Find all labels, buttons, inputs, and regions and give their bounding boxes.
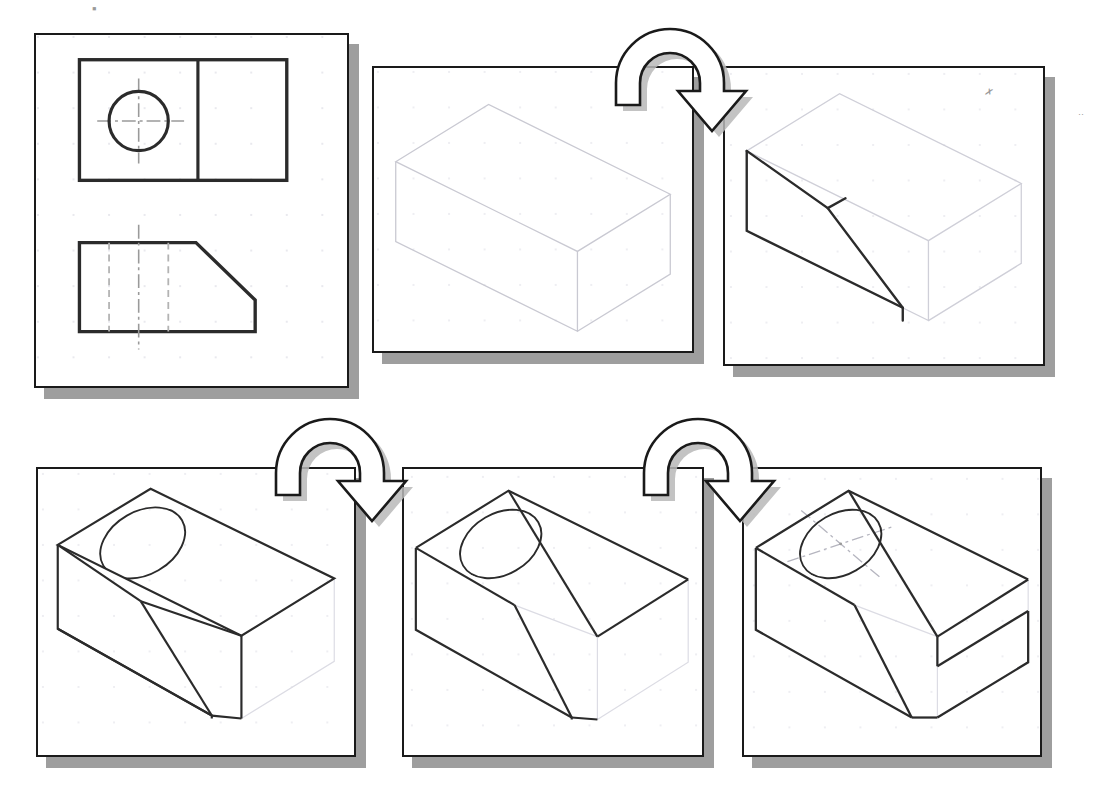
figure-canvas: ▪ — [0, 0, 1097, 792]
angled-cut-panel[interactable] — [723, 66, 1045, 366]
finished-pictorial-panel[interactable] — [742, 467, 1042, 757]
orthographic-views-panel[interactable] — [34, 33, 349, 388]
refined-solid-panel[interactable] — [402, 467, 704, 757]
stray-pencil-mark-right-edge: ·· — [1078, 110, 1084, 119]
solid-with-hole-panel[interactable] — [36, 467, 356, 757]
isometric-box-panel[interactable] — [372, 66, 694, 353]
stray-pencil-mark-top: ▪ — [92, 2, 97, 15]
